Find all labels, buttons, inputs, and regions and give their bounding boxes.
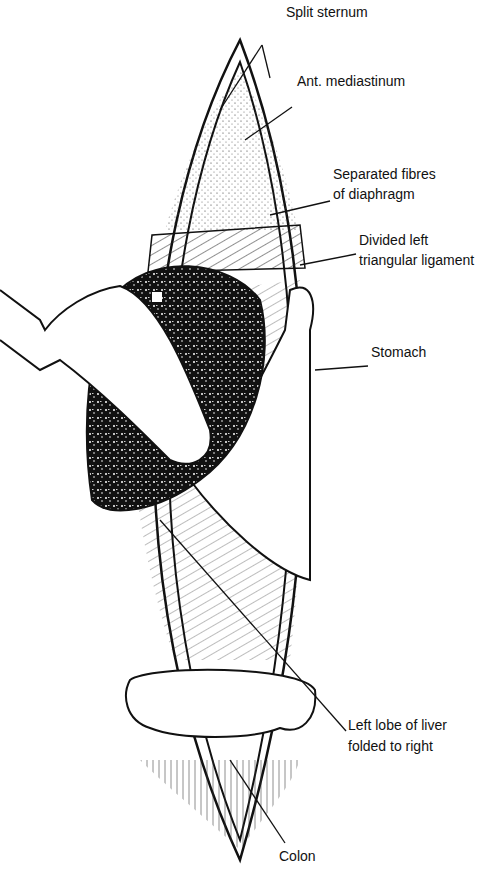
label-stomach: Stomach xyxy=(371,344,426,361)
label-ant-mediastinum: Ant. mediastinum xyxy=(297,73,405,90)
label-folded-to-right: folded to right xyxy=(348,738,433,755)
label-divided-left: Divided left xyxy=(359,232,428,249)
label-split-sternum: Split sternum xyxy=(286,4,368,21)
diagram-canvas: Split sternum Ant. mediastinum Separated… xyxy=(0,0,504,880)
label-of-diaphragm: of diaphragm xyxy=(333,186,415,203)
label-triangular-ligament: triangular ligament xyxy=(359,252,474,269)
label-left-lobe-of-liver: Left lobe of liver xyxy=(348,717,447,734)
label-colon: Colon xyxy=(279,848,316,865)
label-separated-fibres: Separated fibres xyxy=(333,166,436,183)
